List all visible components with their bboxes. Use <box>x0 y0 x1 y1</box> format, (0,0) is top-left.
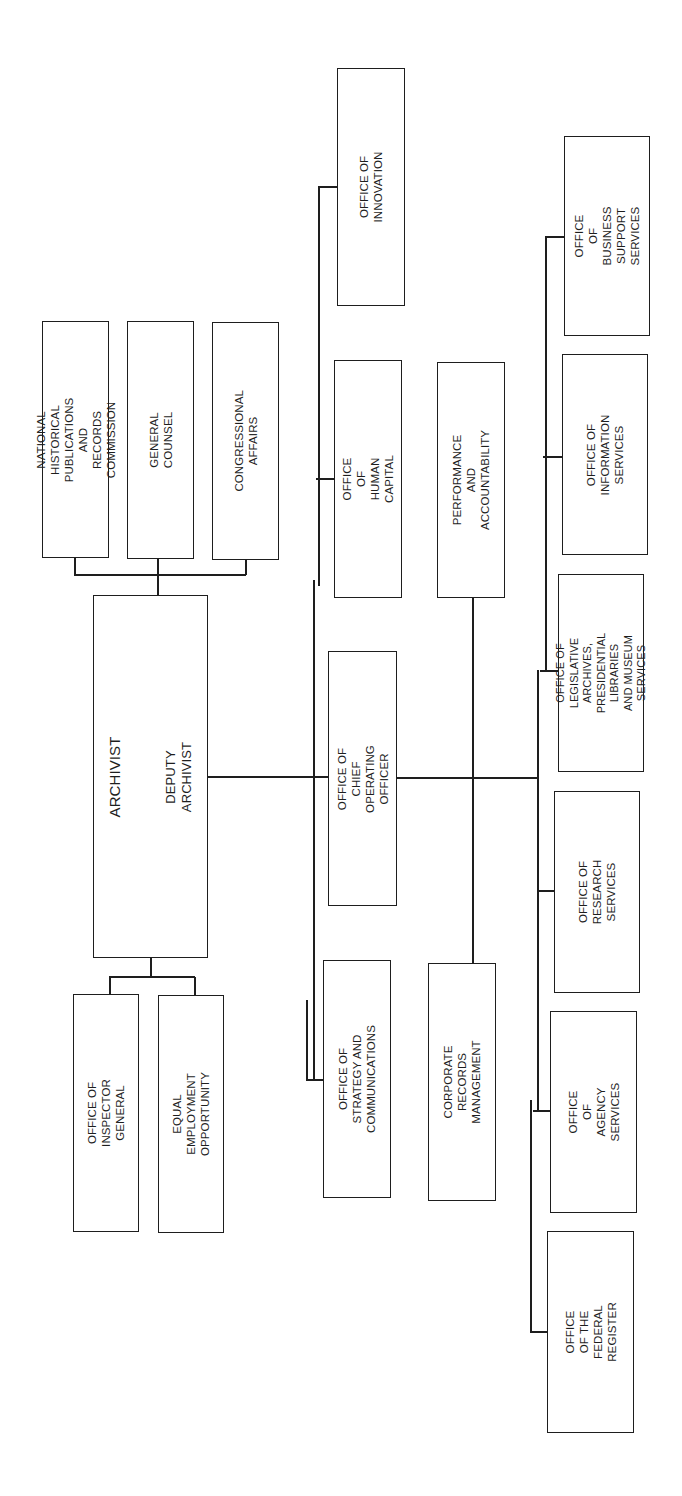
connector-line <box>194 977 196 996</box>
connector-line <box>245 559 247 575</box>
connector-line <box>318 186 338 188</box>
box-strategy-communications: OFFICE OF STRATEGY AND COMMUNICATIONS <box>323 960 391 1198</box>
connector-line <box>74 557 76 575</box>
box-label: GENERAL COUNSEL <box>147 412 175 468</box>
box-label: OFFICE OF HUMAN CAPITAL <box>340 455 396 503</box>
connector-line <box>537 890 555 892</box>
box-label: CORPORATE RECORDS MANAGEMENT <box>441 1040 483 1123</box>
box-label: OFFICE OF RESEARCH SERVICES <box>576 860 618 925</box>
connector-line <box>318 186 320 586</box>
box-performance-accountability: PERFORMANCE AND ACCOUNTABILITY <box>437 362 505 598</box>
box-label: OFFICE OF INFORMATION SERVICES <box>584 414 626 495</box>
box-inspector-general: OFFICE OF INSPECTOR GENERAL <box>73 994 139 1232</box>
connector-line <box>313 580 315 1080</box>
box-general-counsel: GENERAL COUNSEL <box>127 321 194 559</box>
connector-line <box>74 574 246 576</box>
box-label: OFFICE OF CHIEF OPERATING OFFICER <box>335 745 391 813</box>
connector-line <box>472 597 474 963</box>
box-agency-services: OFFICE OF AGENCY SERVICES <box>550 1011 637 1213</box>
connector-line <box>530 1331 548 1333</box>
box-research-services: OFFICE OF RESEARCH SERVICES <box>554 791 640 993</box>
box-label: OFFICE OF BUSINESS SUPPORT SERVICES <box>572 207 642 266</box>
box-label: OFFICE OF INNOVATION <box>357 152 385 223</box>
box-label: OFFICE OF LEGISLATIVE ARCHIVES, PRESIDEN… <box>554 633 649 714</box>
connector-line <box>109 976 195 978</box>
connector-line <box>157 558 159 596</box>
connector-line <box>316 478 335 480</box>
box-label: NATIONAL HISTORICAL PUBLICATIONS AND REC… <box>34 397 118 482</box>
box-innovation: OFFICE OF INNOVATION <box>337 68 405 306</box>
box-label: OFFICE OF INSPECTOR GENERAL <box>85 1079 127 1147</box>
connector-line <box>530 1100 532 1332</box>
connector-line <box>306 1000 308 1080</box>
box-label: OFFICE OF AGENCY SERVICES <box>566 1083 622 1142</box>
connector-line <box>150 957 152 977</box>
connector-line <box>396 777 538 779</box>
box-chief-operating-officer: OFFICE OF CHIEF OPERATING OFFICER <box>328 651 397 906</box>
box-nhprc: NATIONAL HISTORICAL PUBLICATIONS AND REC… <box>42 321 109 558</box>
box-federal-register: OFFICE OF THE FEDERAL REGISTER <box>547 1231 634 1433</box>
deputy-archivist-title: DEPUTY ARCHIVIST <box>163 736 195 817</box>
box-human-capital: OFFICE OF HUMAN CAPITAL <box>334 360 402 598</box>
box-label: PERFORMANCE AND ACCOUNTABILITY <box>450 430 492 530</box>
box-congressional-affairs: CONGRESSIONAL AFFAIRS <box>212 322 279 560</box>
box-archivist: ARCHIVIST DEPUTY ARCHIVIST <box>93 595 208 958</box>
box-eeo: EQUAL EMPLOYMENT OPPORTUNITY <box>158 995 224 1233</box>
box-corporate-records: CORPORATE RECORDS MANAGEMENT <box>428 963 496 1201</box>
connector-line <box>533 1110 551 1112</box>
box-label: EQUAL EMPLOYMENT OPPORTUNITY <box>170 1072 212 1156</box>
archivist-title: ARCHIVIST <box>107 736 123 817</box>
connector-line <box>543 456 563 458</box>
connector-line <box>545 236 565 238</box>
box-legislative-archives: OFFICE OF LEGISLATIVE ARCHIVES, PRESIDEN… <box>558 574 644 772</box>
box-information-services: OFFICE OF INFORMATION SERVICES <box>562 354 648 555</box>
box-label: CONGRESSIONAL AFFAIRS <box>232 390 260 491</box>
connector-line <box>306 1079 324 1081</box>
connector-line <box>545 236 547 670</box>
connector-line <box>207 776 329 778</box>
box-label: OFFICE OF THE FEDERAL REGISTER <box>563 1302 619 1362</box>
connector-line <box>109 976 111 995</box>
box-label: OFFICE OF STRATEGY AND COMMUNICATIONS <box>336 1025 378 1133</box>
org-chart: NATIONAL HISTORICAL PUBLICATIONS AND REC… <box>0 0 682 1496</box>
archivist-labels: ARCHIVIST DEPUTY ARCHIVIST <box>91 736 211 817</box>
box-business-support: OFFICE OF BUSINESS SUPPORT SERVICES <box>564 136 650 336</box>
